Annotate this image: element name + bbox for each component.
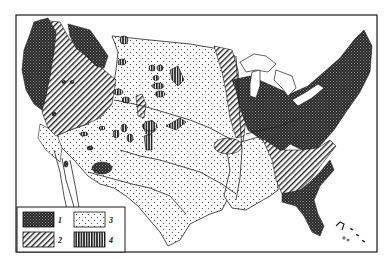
legend-label: 1 bbox=[58, 216, 62, 225]
legend: 1 3 2 4 bbox=[17, 207, 125, 252]
legend-swatch-diagonal bbox=[23, 232, 54, 247]
region-class-2-ozarks bbox=[214, 138, 242, 154]
legend-label: 4 bbox=[108, 236, 113, 245]
legend-swatch-dots bbox=[74, 212, 105, 227]
us-region-map: 1 3 2 4 bbox=[0, 0, 392, 268]
legend-label: 2 bbox=[57, 236, 62, 245]
legend-swatch-vertical bbox=[74, 232, 105, 247]
legend-swatch-dense bbox=[23, 212, 54, 227]
legend-label: 3 bbox=[108, 216, 113, 225]
